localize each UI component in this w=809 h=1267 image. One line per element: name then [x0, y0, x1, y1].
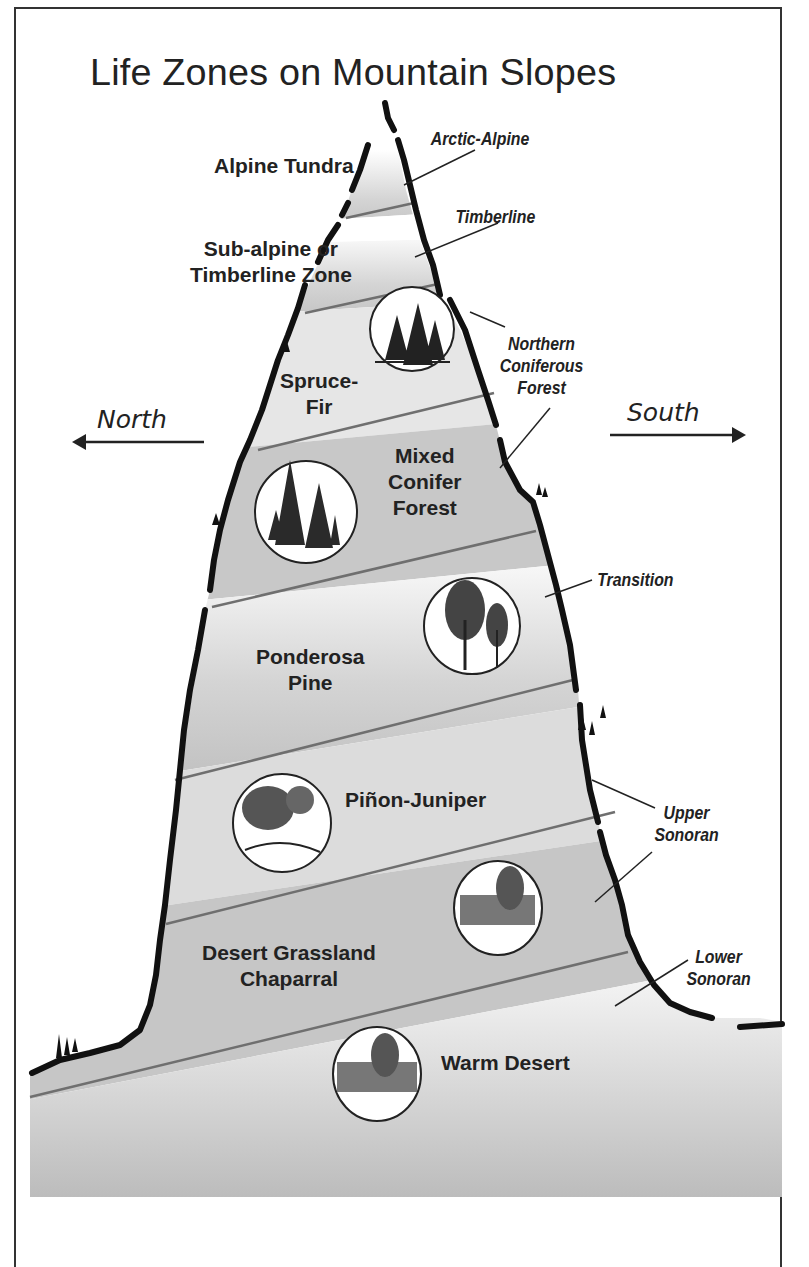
zone-label-spruce-fir: Spruce- Fir — [280, 368, 358, 420]
ponderosa-pine-trees-icon — [424, 578, 520, 674]
zone-mixed-conifer-line1: Mixed — [388, 443, 462, 469]
diagram-title: Life Zones on Mountain Slopes — [90, 52, 616, 94]
zone-desert-grassland-line2: Chaparral — [202, 966, 376, 992]
zone-alpine-tundra-text: Alpine Tundra — [214, 154, 354, 177]
zone-label-warm-desert: Warm Desert — [441, 1050, 570, 1076]
zone-spruce-fir-line1: Spruce- — [280, 368, 358, 394]
zone-mixed-conifer-line2: Conifer — [388, 469, 462, 495]
belt-label-upper-sonoran: Upper Sonoran — [654, 802, 718, 846]
belt-northern-coniferous-line1: Northern — [500, 333, 584, 355]
belt-upper-sonoran-line1: Upper — [654, 802, 718, 824]
belt-northern-coniferous-line3: Forest — [500, 377, 584, 399]
zone-label-ponderosa-pine: Ponderosa Pine — [256, 644, 365, 696]
belt-label-timberline: Timberline — [455, 206, 535, 228]
zone-label-sub-alpine: Sub-alpine or Timberline Zone — [190, 236, 352, 288]
zone-sub-alpine-line1: Sub-alpine or — [190, 236, 352, 262]
pinon-juniper-trees-icon — [233, 774, 331, 872]
belt-lower-sonoran-line2: Sonoran — [686, 968, 750, 990]
belt-upper-sonoran-line2: Sonoran — [654, 824, 718, 846]
belt-lower-sonoran-line1: Lower — [686, 946, 750, 968]
belt-label-lower-sonoran: Lower Sonoran — [686, 946, 750, 990]
mixed-conifer-trees-icon — [255, 460, 357, 563]
belt-timberline-text: Timberline — [455, 207, 535, 227]
zone-desert-grassland-line1: Desert Grassland — [202, 940, 376, 966]
north-label: North — [97, 405, 167, 434]
belt-label-arctic-alpine: Arctic-Alpine — [431, 128, 530, 150]
zone-label-mixed-conifer: Mixed Conifer Forest — [388, 443, 462, 521]
zone-ponderosa-line1: Ponderosa — [256, 644, 365, 670]
warm-desert-shrub-icon — [333, 1027, 421, 1121]
desert-grassland-shrub-icon — [454, 861, 542, 955]
belt-transition-text: Transition — [597, 570, 673, 590]
spruce-fir-trees-icon — [370, 287, 454, 371]
zone-label-alpine-tundra: Alpine Tundra — [214, 153, 354, 179]
zone-pinon-juniper-text: Piñon-Juniper — [345, 788, 486, 811]
north-arrow — [72, 434, 204, 450]
belt-northern-coniferous-line2: Coniferous — [500, 355, 584, 377]
zone-ponderosa-line2: Pine — [256, 670, 365, 696]
zone-warm-desert-text: Warm Desert — [441, 1051, 570, 1074]
zone-spruce-fir-line2: Fir — [280, 394, 358, 420]
south-arrow — [610, 427, 746, 443]
belt-label-northern-coniferous: Northern Coniferous Forest — [500, 333, 584, 399]
zone-label-desert-grassland: Desert Grassland Chaparral — [202, 940, 376, 992]
zone-sub-alpine-line2: Timberline Zone — [190, 262, 352, 288]
zone-mixed-conifer-line3: Forest — [388, 495, 462, 521]
south-label: South — [627, 398, 700, 427]
belt-arctic-alpine-text: Arctic-Alpine — [431, 129, 530, 149]
zone-label-pinon-juniper: Piñon-Juniper — [345, 787, 486, 813]
belt-label-transition: Transition — [597, 569, 673, 591]
